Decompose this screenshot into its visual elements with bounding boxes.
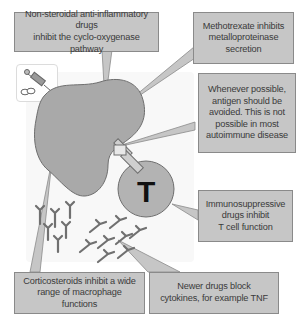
callout-newer-drugs: Newer drugs block cytokines, for example… — [149, 272, 279, 314]
callout-corticosteroids-line2: range of macrophage functions — [19, 287, 140, 310]
callout-immunosuppressive-line1: Immunosuppressive — [206, 199, 286, 211]
callout-corticosteroids: Corticosteroids inhibit a wide range of … — [14, 272, 145, 314]
callout-immunosuppressive-line3: T cell function — [206, 222, 286, 234]
t-cell-label: T — [137, 175, 155, 208]
callout-antigen-line2: antigen should be — [206, 96, 288, 108]
pointer-immunosuppressive — [172, 204, 198, 220]
callout-antigen-line5: autoimmune disease — [206, 130, 288, 142]
callout-antigen-line4: possible in most — [206, 119, 288, 131]
callout-antigen-line3: avoided. This is not — [206, 107, 288, 119]
callout-corticosteroids-line1: Corticosteroids inhibit a wide — [19, 276, 140, 288]
callout-antigen-line1: Whenever possible, — [206, 84, 288, 96]
pointer-newer-drugs — [118, 240, 180, 272]
callout-nsaids-line1: Non-steroidal anti-inflammatory drugs — [19, 9, 154, 32]
callout-methotrexate-line1: Methotrexate inhibits — [203, 21, 285, 33]
diagram-canvas: T Non-steroidal anti-inflamm — [0, 0, 304, 329]
callout-immunosuppressive-line2: drugs inhibit — [206, 210, 286, 222]
callout-methotrexate-line2: metalloproteinase — [203, 32, 285, 44]
callout-newer-drugs-line1: Newer drugs block — [160, 281, 268, 293]
callout-nsaids: Non-steroidal anti-inflammatory drugs in… — [14, 12, 159, 52]
callout-methotrexate-line3: secretion — [203, 44, 285, 56]
callout-immunosuppressive: Immunosuppressive drugs inhibit T cell f… — [198, 190, 293, 242]
callout-methotrexate: Methotrexate inhibits metalloproteinase … — [193, 12, 294, 64]
callout-antigen: Whenever possible, antigen should be avo… — [198, 73, 296, 153]
callout-nsaids-line2: inhibit the cyclo-oxygenase pathway — [19, 32, 154, 55]
callout-newer-drugs-line2: cytokines, for example TNF — [160, 293, 268, 305]
